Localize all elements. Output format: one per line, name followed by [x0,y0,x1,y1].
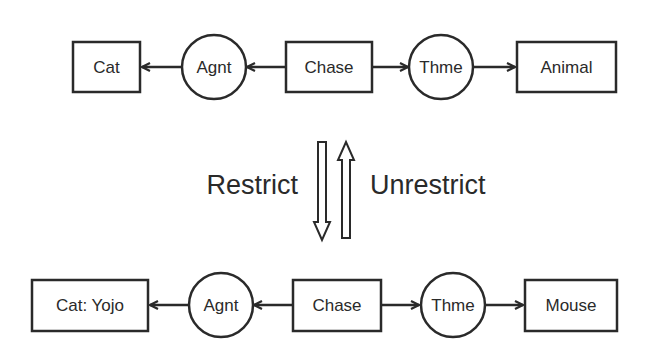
node-label: Thme [431,296,474,315]
relation-node-thme: Thme [409,35,473,99]
node-label: Mouse [545,296,596,315]
unrestrict-label: Unrestrict [370,170,486,200]
concept-node-cat-yojo: Cat: Yojo [32,280,148,331]
node-label: Thme [419,58,462,77]
node-label: Agnt [197,58,232,77]
conceptual-graph-diagram: Cat Agnt Chase Thme Animal Restrict Unre… [0,0,650,348]
node-label: Chase [312,296,361,315]
down-arrow-icon [314,142,330,240]
restrict-label: Restrict [206,170,298,200]
relation-node-agnt: Agnt [182,35,246,99]
relation-node-agnt: Agnt [189,273,253,337]
node-label: Agnt [204,296,239,315]
concept-node-chase: Chase [293,280,381,331]
node-label: Cat [93,58,120,77]
top-graph: Cat Agnt Chase Thme Animal [73,35,616,99]
bottom-graph: Cat: Yojo Agnt Chase Thme Mouse [32,273,617,337]
operations: Restrict Unrestrict [206,142,486,240]
concept-node-chase: Chase [286,42,372,92]
node-label: Animal [541,58,593,77]
node-label: Cat: Yojo [56,296,124,315]
node-label: Chase [304,58,353,77]
relation-node-thme: Thme [421,273,485,337]
up-arrow-icon [338,142,354,238]
concept-node-animal: Animal [517,42,616,92]
concept-node-mouse: Mouse [525,280,617,331]
concept-node-cat: Cat [73,42,140,92]
